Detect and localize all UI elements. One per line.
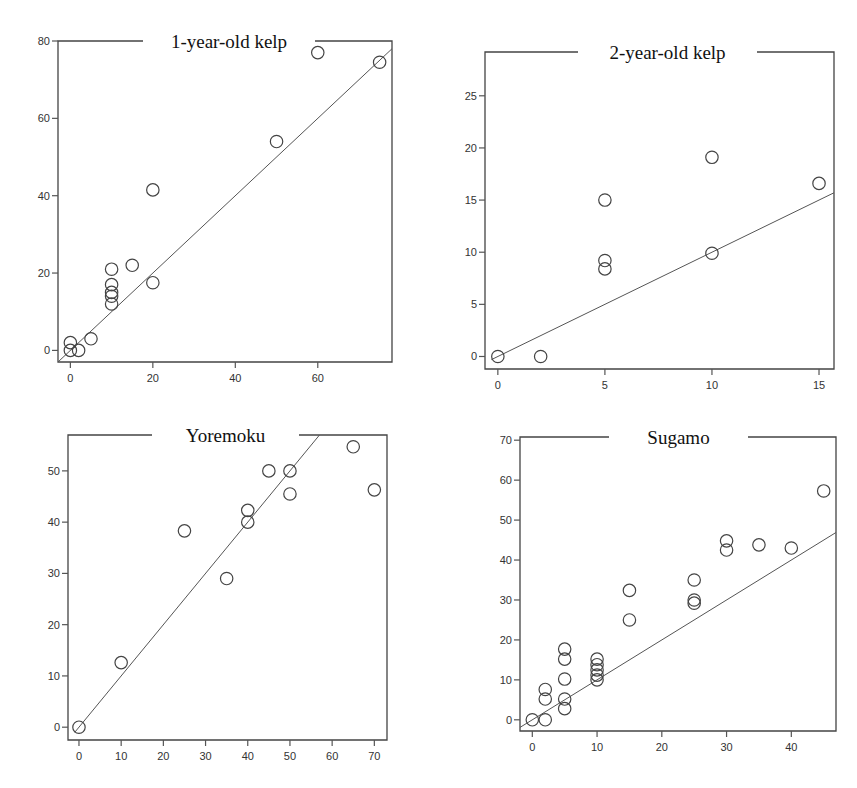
data-point (126, 259, 138, 271)
y-tick-label: 40 (500, 554, 512, 566)
y-tick-label: 0 (44, 344, 50, 356)
y-tick-label: 50 (48, 465, 60, 477)
fit-line (520, 532, 836, 727)
data-point (558, 673, 570, 685)
data-point (706, 247, 718, 259)
panel-title: 1-year-old kelp (171, 31, 287, 52)
panel-title: 2-year-old kelp (609, 42, 725, 63)
data-point (178, 525, 190, 537)
fit-line (75, 435, 320, 732)
y-tick-label: 0 (471, 350, 477, 362)
y-tick-label: 10 (465, 246, 477, 258)
y-tick-label: 20 (38, 267, 50, 279)
x-tick-label: 20 (656, 741, 668, 753)
panel-yoremoku: 01020304050607001020304050Yoremoku (48, 425, 387, 762)
x-tick-label: 0 (529, 741, 535, 753)
data-point (368, 484, 380, 496)
y-tick-label: 60 (500, 474, 512, 486)
x-tick-label: 10 (706, 379, 718, 391)
x-tick-label: 40 (242, 750, 254, 762)
data-point (599, 254, 611, 266)
x-tick-label: 40 (229, 372, 241, 384)
x-tick-label: 0 (76, 750, 82, 762)
x-tick-label: 15 (813, 379, 825, 391)
plot-frame (520, 437, 836, 731)
x-tick-label: 30 (199, 750, 211, 762)
data-point (720, 535, 732, 547)
y-tick-label: 60 (38, 112, 50, 124)
x-tick-label: 70 (368, 750, 380, 762)
data-point (85, 333, 97, 345)
y-tick-label: 30 (500, 594, 512, 606)
figure-canvas: 02040600204060801-year-old kelp 05101505… (0, 0, 857, 788)
panel-2-year-old-kelp: 05101505101520252-year-old kelp (465, 42, 834, 391)
x-tick-label: 10 (591, 741, 603, 753)
data-point (220, 572, 232, 584)
plot-frame (485, 52, 834, 369)
data-point (706, 151, 718, 163)
data-point (599, 194, 611, 206)
y-tick-label: 10 (48, 670, 60, 682)
data-point (147, 277, 159, 289)
y-tick-label: 5 (471, 298, 477, 310)
data-point (817, 485, 829, 497)
data-point (688, 594, 700, 606)
y-tick-label: 10 (500, 674, 512, 686)
x-tick-label: 60 (312, 372, 324, 384)
data-point (623, 614, 635, 626)
x-tick-label: 40 (785, 741, 797, 753)
y-tick-label: 20 (500, 634, 512, 646)
y-tick-label: 80 (38, 35, 50, 47)
y-tick-label: 40 (48, 516, 60, 528)
x-tick-label: 60 (326, 750, 338, 762)
panel-title: Yoremoku (186, 425, 266, 446)
data-point (558, 693, 570, 705)
data-point (813, 177, 825, 189)
data-point (534, 350, 546, 362)
x-tick-label: 10 (115, 750, 127, 762)
data-point (312, 46, 324, 58)
data-point (539, 683, 551, 695)
x-tick-label: 0 (67, 372, 73, 384)
data-point (105, 278, 117, 290)
x-tick-label: 5 (602, 379, 608, 391)
data-point (270, 135, 282, 147)
panel-sugamo: 010203040010203040506070Sugamo (500, 427, 836, 753)
x-tick-label: 20 (157, 750, 169, 762)
y-tick-label: 70 (500, 434, 512, 446)
data-point (558, 702, 570, 714)
data-point (539, 693, 551, 705)
y-tick-label: 50 (500, 514, 512, 526)
data-point (753, 539, 765, 551)
data-point (539, 714, 551, 726)
y-tick-label: 30 (48, 567, 60, 579)
fit-line (58, 49, 392, 362)
data-point (105, 298, 117, 310)
panel-1-year-old-kelp: 02040600204060801-year-old kelp (38, 31, 392, 384)
y-tick-label: 15 (465, 194, 477, 206)
data-point (688, 597, 700, 609)
y-tick-label: 0 (54, 721, 60, 733)
data-point (147, 184, 159, 196)
data-point (373, 56, 385, 68)
x-tick-label: 30 (720, 741, 732, 753)
data-point (64, 336, 76, 348)
data-point (263, 465, 275, 477)
data-point (242, 504, 254, 516)
x-tick-label: 50 (284, 750, 296, 762)
data-point (105, 263, 117, 275)
data-point (623, 584, 635, 596)
panel-title: Sugamo (647, 427, 709, 448)
y-tick-label: 20 (48, 619, 60, 631)
data-point (688, 574, 700, 586)
plot-frame (58, 41, 392, 362)
data-point (347, 441, 359, 453)
plot-frame (68, 435, 387, 740)
y-tick-label: 40 (38, 190, 50, 202)
data-point (785, 542, 797, 554)
data-point (72, 344, 84, 356)
data-point (115, 656, 127, 668)
y-tick-label: 25 (465, 90, 477, 102)
y-tick-label: 20 (465, 142, 477, 154)
data-point (284, 488, 296, 500)
